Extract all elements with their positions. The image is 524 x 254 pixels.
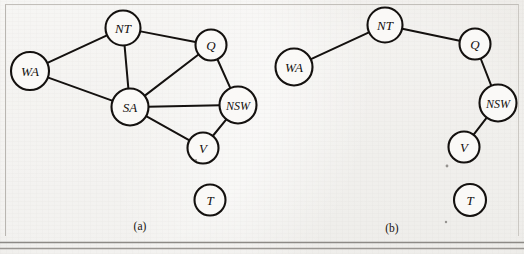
- node-label-a-T: T: [206, 193, 214, 208]
- node-label-b-T: T: [466, 193, 474, 208]
- node-label-a-Q: Q: [206, 38, 216, 53]
- graph-node-a-WA[interactable]: WA: [11, 52, 49, 90]
- graph-node-a-NSW[interactable]: NSW: [220, 87, 257, 124]
- constraint-graph-canvas: WANTQSANSWVTWANTQNSWVT (a)(b): [0, 0, 524, 254]
- graph-edge-a-Q-NSW: [217, 58, 231, 89]
- graph-edge-a-WA-NT: [46, 35, 108, 64]
- graph-node-b-NT[interactable]: NT: [368, 8, 403, 43]
- node-label-a-WA: WA: [21, 64, 39, 79]
- graph-node-b-Q[interactable]: Q: [460, 29, 491, 60]
- captions-layer: (a)(b): [134, 220, 399, 235]
- graph-edge-a-SA-Q: [144, 54, 200, 97]
- graph-edge-b-NSW-V: [473, 117, 487, 136]
- graph-edge-b-Q-NSW: [480, 58, 491, 87]
- graph-node-a-NT[interactable]: NT: [106, 11, 141, 46]
- graph-node-b-WA[interactable]: WA: [276, 49, 313, 86]
- graph-edge-a-SA-V: [145, 116, 190, 141]
- graph-edge-a-NT-Q: [139, 31, 197, 42]
- graph-node-b-V[interactable]: V: [449, 132, 480, 163]
- paper-speck-1: [446, 165, 449, 168]
- node-label-a-NT: NT: [114, 21, 132, 36]
- node-label-a-NSW: NSW: [225, 99, 251, 113]
- graph-node-a-SA[interactable]: SA: [112, 89, 149, 126]
- figure-root: WANTQSANSWVTWANTQNSWVT (a)(b): [0, 0, 524, 254]
- graph-node-a-V[interactable]: V: [188, 133, 219, 164]
- graph-edge-b-NT-Q: [401, 28, 461, 41]
- rules-layer: [0, 243, 524, 249]
- graph-edge-a-NT-SA: [124, 44, 128, 89]
- graph-node-b-T[interactable]: T: [454, 184, 486, 216]
- node-label-b-NT: NT: [376, 18, 394, 33]
- graph-node-b-NSW[interactable]: NSW: [480, 85, 517, 122]
- node-label-a-SA: SA: [123, 100, 138, 115]
- graph-edge-b-WA-NT: [310, 32, 370, 60]
- node-label-b-NSW: NSW: [485, 97, 511, 111]
- panel-caption-b: (b): [385, 222, 399, 235]
- node-label-b-WA: WA: [285, 60, 303, 75]
- graph-node-a-Q[interactable]: Q: [196, 30, 227, 61]
- nodes-layer: WANTQSANSWVTWANTQNSWVT: [11, 8, 517, 217]
- graph-edge-a-NSW-V: [212, 119, 227, 137]
- node-label-b-Q: Q: [470, 37, 480, 52]
- graph-node-a-T[interactable]: T: [195, 185, 226, 216]
- edges-layer: [46, 28, 491, 140]
- paper-speck-2: [445, 221, 447, 223]
- paper-specks-layer: [195, 159, 448, 223]
- graph-edge-a-WA-SA: [47, 77, 114, 101]
- graph-edge-a-SA-NSW: [148, 105, 221, 106]
- panel-caption-a: (a): [134, 220, 147, 233]
- paper-speck-3: [195, 159, 197, 161]
